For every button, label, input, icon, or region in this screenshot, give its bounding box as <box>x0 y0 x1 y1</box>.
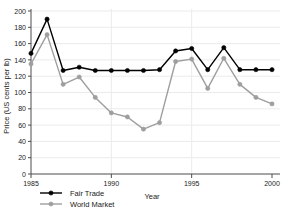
data-point <box>141 68 145 72</box>
chart-container: 020406080100120140160180200 198519901995… <box>0 0 289 214</box>
y-tick-label: 160 <box>14 40 26 47</box>
data-point <box>174 49 178 53</box>
data-point <box>125 68 129 72</box>
y-tick-label: 180 <box>14 24 26 31</box>
data-point <box>254 68 258 72</box>
legend-item[interactable]: World Market <box>40 200 115 209</box>
gridlines <box>31 9 280 174</box>
y-tick-label: 60 <box>18 122 26 129</box>
data-point <box>109 111 113 115</box>
x-axis: 1985199019952000 <box>23 174 280 187</box>
y-tick-label: 140 <box>14 57 26 64</box>
series-line <box>31 35 272 130</box>
data-point <box>254 95 258 99</box>
legend-label: Fair Trade <box>70 189 104 198</box>
legend-item[interactable]: Fair Trade <box>40 189 104 198</box>
data-point <box>190 57 194 61</box>
data-point <box>141 127 145 131</box>
legend-marker-icon <box>49 191 53 195</box>
x-tick-label: 1985 <box>23 180 39 187</box>
data-point <box>61 82 65 86</box>
series-layer <box>29 17 274 131</box>
y-tick-label: 40 <box>18 138 26 145</box>
y-tick-label: 80 <box>18 105 26 112</box>
data-point <box>29 62 33 66</box>
data-point <box>190 46 194 50</box>
y-tick-label: 0 <box>22 171 26 178</box>
y-tick-label: 200 <box>14 8 26 15</box>
price-line-chart: 020406080100120140160180200 198519901995… <box>0 0 289 214</box>
y-axis: 020406080100120140160180200 <box>14 8 31 178</box>
y-tick-label: 120 <box>14 73 26 80</box>
x-tick-label: 1995 <box>184 180 200 187</box>
data-point <box>222 46 226 50</box>
data-point <box>238 82 242 86</box>
data-point <box>93 95 97 99</box>
data-point <box>45 17 49 21</box>
data-point <box>157 121 161 125</box>
data-point <box>206 68 210 72</box>
data-point <box>270 102 274 106</box>
x-axis-title: Year <box>144 192 160 201</box>
data-point <box>157 68 161 72</box>
data-point <box>238 68 242 72</box>
data-point <box>77 75 81 79</box>
x-tick-label: 2000 <box>264 180 280 187</box>
data-point <box>206 86 210 90</box>
data-point <box>125 115 129 119</box>
data-point <box>29 51 33 55</box>
legend-marker-icon <box>49 202 53 206</box>
y-tick-label: 20 <box>18 154 26 161</box>
y-tick-label: 100 <box>14 89 26 96</box>
data-point <box>222 56 226 60</box>
x-tick-label: 1990 <box>104 180 120 187</box>
data-point <box>109 68 113 72</box>
data-point <box>270 68 274 72</box>
y-axis-title: Price (US cents per lb) <box>2 58 11 134</box>
data-point <box>61 68 65 72</box>
data-point <box>77 65 81 69</box>
legend: Fair TradeWorld Market <box>40 189 115 209</box>
data-point <box>174 59 178 63</box>
legend-label: World Market <box>70 200 115 209</box>
data-point <box>93 68 97 72</box>
data-point <box>45 33 49 37</box>
